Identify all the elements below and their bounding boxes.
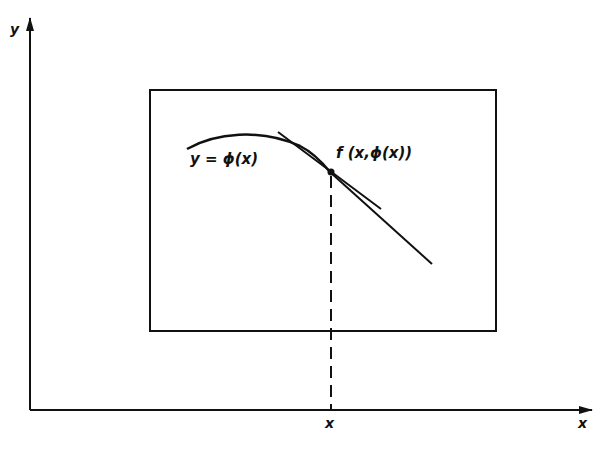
y-axis-label: y [10, 21, 20, 37]
domain-rectangle [150, 90, 496, 331]
diagram-canvas: y x x y = ϕ(x) f (x,ϕ(x)) [0, 0, 610, 451]
tangency-point [328, 169, 335, 176]
x-axis-label: x [577, 415, 588, 431]
point-label: f (x,ϕ(x)) [336, 144, 412, 162]
x-tick-label: x [324, 415, 335, 431]
curve-label: y = ϕ(x) [190, 150, 258, 168]
direction-line [330, 172, 432, 264]
